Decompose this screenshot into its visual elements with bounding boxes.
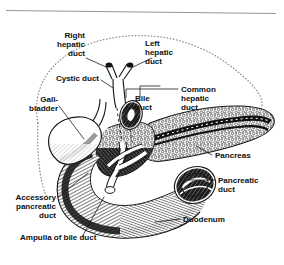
label-pancreatic-duct-line2: duct: [218, 185, 235, 194]
anatomical-figure: Right hepatic duct Left hepatic duct Cys…: [0, 0, 284, 265]
label-common-hepatic-duct-line3: duct: [181, 103, 198, 112]
label-bile-duct-line1: Bile: [135, 94, 150, 103]
label-gallbladder-line2: bladder: [29, 104, 59, 113]
label-bile-duct: Bile duct: [135, 94, 152, 112]
label-accessory-pancreatic-duct-line1: Accessory: [16, 193, 57, 202]
label-right-hepatic-duct-line2: hepatic: [57, 40, 86, 49]
label-duodenum-line1: Duodenum: [183, 215, 225, 224]
label-gallbladder-line1: Gall-: [40, 95, 58, 104]
label-left-hepatic-duct-line2: hepatic: [145, 48, 174, 57]
label-ampulla-of-bile-duct: Ampulla of bile duct: [20, 233, 97, 242]
label-pancreatic-duct-line1: Pancreatic: [218, 176, 259, 185]
label-left-hepatic-duct-line1: Left: [145, 39, 160, 48]
label-accessory-pancreatic-duct-line2: pancreatic: [16, 202, 57, 211]
label-duodenum: Duodenum: [183, 215, 225, 224]
label-pancreas-line1: Pancreas: [215, 151, 251, 160]
label-common-hepatic-duct-line2: hepatic: [181, 94, 210, 103]
label-cystic-duct: Cystic duct: [56, 74, 99, 83]
label-right-hepatic-duct-line1: Right: [65, 31, 86, 40]
label-left-hepatic-duct-line3: duct: [145, 57, 162, 66]
label-ampulla-of-bile-duct-line1: Ampulla of bile duct: [20, 233, 97, 242]
label-pancreas: Pancreas: [215, 151, 251, 160]
label-accessory-pancreatic-duct-line3: duct: [39, 211, 56, 220]
label-cystic-duct-line1: Cystic duct: [56, 74, 99, 83]
label-right-hepatic-duct-line3: duct: [68, 49, 85, 58]
label-bile-duct-line2: duct: [135, 103, 152, 112]
label-common-hepatic-duct-line1: Common: [181, 85, 216, 94]
